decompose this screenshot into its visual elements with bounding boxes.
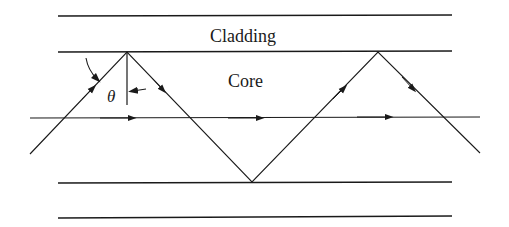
fiber-diagram: Cladding Core θ (0, 0, 509, 227)
outer-cladding-bottom-line (58, 216, 452, 218)
theta-label: θ (107, 87, 115, 106)
complement-angle-arrow (86, 58, 97, 79)
cladding-label: Cladding (210, 26, 276, 46)
axial-ray (30, 117, 480, 118)
angle-theta-arrow (133, 89, 146, 91)
core-label: Core (228, 71, 263, 91)
core-cladding-top-boundary (58, 51, 452, 52)
outer-cladding-top-line (58, 15, 452, 16)
core-cladding-bottom-boundary (58, 182, 452, 183)
